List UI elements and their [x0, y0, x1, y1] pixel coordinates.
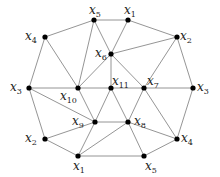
node-label-subscript: 10 [67, 96, 77, 105]
graph-node-n_x6 [108, 51, 113, 56]
edge-n_x7-n_x4_right [144, 88, 177, 139]
node-label: x5 [145, 159, 157, 175]
edge-n_x5_bottom-n_x4_right [144, 139, 177, 156]
node-label-subscript: 1 [131, 10, 136, 19]
graph-node-n_x4_right [174, 136, 179, 141]
graph-node-n_x1_bottom [75, 153, 80, 158]
edge-n_x11-n_x9 [95, 88, 111, 122]
graph-node-n_x7 [141, 85, 146, 90]
graph-node-n_x2_right [174, 34, 179, 39]
node-label-subscript: 3 [204, 87, 209, 96]
edge-n_x5_top-n_x10 [78, 20, 94, 88]
node-label-subscript: 11 [119, 81, 129, 90]
node-label-subscript: 1 [80, 166, 85, 175]
graph-node-n_x4_left [42, 34, 47, 39]
node-label-subscript: 5 [96, 10, 101, 19]
graph-node-n_x9 [92, 119, 97, 124]
node-label: x3 [197, 80, 209, 96]
edge-n_x5_top-n_x4_left [45, 20, 94, 37]
node-label-subscript: 2 [187, 36, 192, 45]
node-label: x4 [181, 131, 193, 147]
node-label-subscript: 5 [152, 166, 157, 175]
node-label-subscript: 4 [188, 138, 193, 147]
node-label: x7 [147, 74, 159, 90]
graph-node-n_x5_bottom [141, 153, 146, 158]
graph-node-n_x10 [75, 85, 80, 90]
node-label: x3 [10, 80, 22, 96]
node-label: x1 [124, 3, 136, 19]
node-label-subscript: 9 [79, 121, 84, 130]
node-label-subscript: 3 [17, 87, 22, 96]
node-label: x5 [89, 3, 101, 19]
edge-n_x4_left-n_x10 [45, 37, 78, 88]
edge-n_x8-n_x1_bottom [78, 122, 128, 156]
graph-diagram: x5x1x4x2x6x3x10x11x7x3x9x8x2x4x1x5 [0, 0, 220, 177]
node-label: x4 [25, 29, 37, 45]
graph-node-n_x3_left [26, 85, 31, 90]
graph-node-n_x3_right [190, 85, 195, 90]
edge-n_x1_top-n_x6 [111, 20, 128, 54]
graph-node-n_x8 [125, 119, 130, 124]
node-label: x2 [180, 29, 192, 45]
edge-n_x6-n_x2_right [111, 37, 177, 54]
node-label: x2 [25, 131, 37, 147]
node-label: x1 [73, 159, 85, 175]
edge-n_x11-n_x8 [111, 88, 128, 122]
node-label: x6 [95, 46, 107, 62]
edge-n_x10-n_x9 [78, 88, 95, 122]
node-label-subscript: 4 [32, 36, 37, 45]
graph-node-n_x2_left [42, 136, 47, 141]
node-label-subscript: 6 [102, 53, 107, 62]
node-label: x9 [72, 114, 84, 130]
edge-n_x1_top-n_x2_right [128, 20, 177, 37]
node-label-subscript: 2 [32, 138, 37, 147]
edge-n_x2_left-n_x1_bottom [45, 139, 78, 156]
node-label: x8 [134, 114, 146, 130]
node-label: x10 [60, 89, 77, 105]
node-label-subscript: 7 [154, 81, 159, 90]
node-label-subscript: 8 [141, 121, 146, 130]
node-label: x11 [112, 74, 129, 90]
